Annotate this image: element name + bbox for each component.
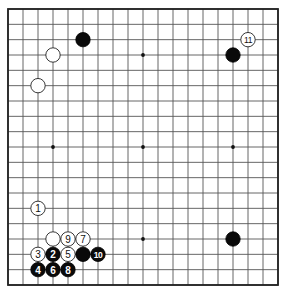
- move-number: 3: [35, 249, 41, 260]
- move-number: 8: [65, 265, 71, 276]
- black-stone: [76, 247, 90, 261]
- stone-disc: [226, 232, 240, 246]
- white-stone: 7: [76, 232, 90, 246]
- white-stone: 5: [61, 247, 75, 261]
- black-stone: [226, 232, 240, 246]
- move-number: 10: [94, 250, 103, 260]
- move-number: 4: [35, 265, 41, 276]
- move-number: 1: [35, 203, 41, 214]
- black-stone: 10: [91, 247, 105, 261]
- stone-disc: [76, 247, 90, 261]
- white-stone: 1: [31, 201, 45, 215]
- move-number: 9: [65, 234, 71, 245]
- black-stone: [76, 32, 90, 46]
- white-stone: [31, 78, 45, 92]
- black-stone: 2: [46, 247, 60, 261]
- stone-disc: [46, 232, 60, 246]
- star-point: [141, 237, 145, 241]
- stone-disc: [31, 78, 45, 92]
- move-number: 7: [80, 234, 86, 245]
- white-stone: 3: [31, 247, 45, 261]
- white-stone: 9: [61, 232, 75, 246]
- white-stone: 11: [241, 32, 255, 46]
- move-number: 11: [244, 35, 253, 45]
- white-stone: [46, 48, 60, 62]
- black-stone: 4: [31, 262, 45, 276]
- star-point: [231, 145, 235, 149]
- stone-disc: [46, 48, 60, 62]
- move-number: 5: [65, 249, 71, 260]
- move-number: 6: [50, 265, 56, 276]
- star-point: [51, 145, 55, 149]
- black-stone: [226, 48, 240, 62]
- black-stone: 6: [46, 262, 60, 276]
- stone-disc: [76, 32, 90, 46]
- stone-disc: [226, 48, 240, 62]
- star-point: [141, 145, 145, 149]
- go-board: 1119732510468: [0, 0, 287, 291]
- star-point: [141, 53, 145, 57]
- move-number: 2: [50, 249, 56, 260]
- white-stone: [46, 232, 60, 246]
- black-stone: 8: [61, 262, 75, 276]
